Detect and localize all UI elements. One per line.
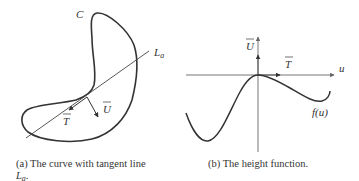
curve-label-c: C [76, 8, 84, 20]
caption-a: (a) The curve with tangent line La. [16, 158, 146, 181]
closed-curve-c [22, 13, 137, 141]
caption-a-line1: (a) The curve with tangent line [16, 158, 146, 170]
normal-vector-u [87, 97, 98, 117]
vertical-axis-label-u: U [246, 40, 255, 52]
line-label-la: La [153, 46, 164, 60]
figure-a: C La T U [22, 8, 164, 141]
normal-label-u: U [103, 103, 112, 115]
caption-b: (b) The height function. [208, 158, 308, 170]
tangent-label-t-b: T [285, 58, 292, 70]
tangent-line-la [26, 51, 149, 138]
caption-b-text: (b) The height function. [208, 158, 308, 170]
caption-a-line2: La. [16, 170, 146, 181]
figure-canvas: C La T U U u T f(u) [0, 0, 359, 181]
horizontal-axis-label-u: u [339, 62, 345, 74]
tangent-label-t: T [63, 115, 70, 127]
function-label-fu: f(u) [312, 106, 328, 119]
figure-b: U u T f(u) [186, 37, 345, 152]
